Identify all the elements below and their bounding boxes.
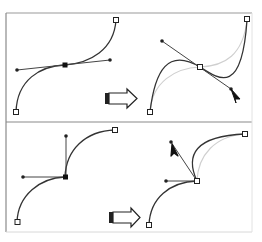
direction-handle-icon — [108, 58, 112, 62]
panel-bottom-after — [147, 132, 248, 228]
direction-handle-icon — [164, 179, 168, 183]
panel-top-after — [148, 17, 250, 115]
ghost-curve — [197, 134, 245, 181]
bezier-diagram — [0, 0, 262, 242]
direction-handle-icon — [64, 134, 68, 138]
direction-line — [171, 142, 197, 181]
bezier-curve — [17, 177, 65, 222]
anchor-point-icon — [198, 65, 203, 70]
panel-top-before — [14, 18, 119, 115]
anchor-point-icon — [243, 132, 248, 137]
anchor-point-icon — [14, 110, 19, 115]
direction-handle-icon — [15, 68, 19, 72]
diagram-frame — [6, 13, 252, 232]
bezier-curve — [149, 181, 197, 225]
panel-bottom-before — [15, 128, 118, 225]
pointer-cursor-icon — [231, 89, 240, 103]
anchor-point-icon — [245, 17, 250, 22]
anchor-point-icon — [147, 223, 152, 228]
direction-handle-icon — [21, 175, 25, 179]
anchor-point-icon — [195, 179, 200, 184]
anchor-point-icon — [113, 128, 118, 133]
bezier-curve — [65, 130, 115, 177]
anchor-point-icon — [114, 18, 119, 23]
anchor-point-selected-icon — [63, 63, 68, 68]
pointer-cursor-icon — [171, 144, 178, 156]
direction-handle-icon — [169, 140, 173, 144]
right-arrow-icon — [109, 208, 140, 227]
right-arrow-icon — [105, 89, 137, 108]
direction-handle-icon — [160, 39, 164, 43]
anchor-point-selected-icon — [63, 175, 68, 180]
anchor-point-icon — [148, 110, 153, 115]
direction-line — [162, 41, 231, 89]
anchor-point-icon — [15, 220, 20, 225]
